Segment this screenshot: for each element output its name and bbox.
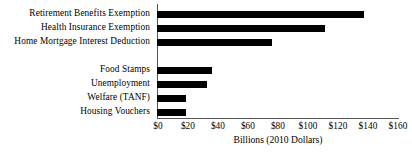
category-axis-labels: Retirement Benefits Exemption Health Ins… (0, 0, 154, 120)
x-axis-line (157, 118, 399, 119)
category-label-unemployment: Unemployment (91, 78, 150, 88)
x-tick-40: $40 (211, 120, 225, 132)
category-label-retirement-benefits-exemption: Retirement Benefits Exemption (29, 8, 150, 18)
category-label-housing-vouchers: Housing Vouchers (80, 106, 150, 116)
bar-food-stamps (157, 67, 212, 74)
bar-home-mortgage-interest-deduction (157, 39, 272, 46)
category-label-food-stamps: Food Stamps (100, 64, 150, 74)
bar-health-insurance-exemption (157, 25, 325, 32)
bar-unemployment (157, 81, 207, 88)
category-label-health-insurance-exemption: Health Insurance Exemption (41, 22, 150, 32)
bar-retirement-benefits-exemption (157, 11, 364, 18)
plot-area (157, 4, 399, 118)
x-axis-tick-labels: $0 $20 $40 $60 $80 $100 $120 $140 $160 (157, 120, 399, 134)
x-tick-20: $20 (181, 120, 195, 132)
x-tick-60: $60 (241, 120, 255, 132)
x-tick-80: $80 (271, 120, 285, 132)
x-tick-120: $120 (329, 120, 348, 132)
category-label-home-mortgage-interest-deduction: Home Mortgage Interest Deduction (14, 36, 150, 46)
x-tick-160: $160 (389, 120, 408, 132)
bar-welfare-tanf (157, 95, 186, 102)
x-axis-title: Billions (2010 Dollars) (157, 134, 399, 146)
category-label-welfare-tanf: Welfare (TANF) (87, 92, 150, 102)
x-tick-100: $100 (299, 120, 318, 132)
bar-housing-vouchers (157, 109, 186, 116)
x-tick-140: $140 (359, 120, 378, 132)
x-tick-0: $0 (153, 120, 163, 132)
horizontal-bar-chart: Retirement Benefits Exemption Health Ins… (0, 0, 412, 161)
